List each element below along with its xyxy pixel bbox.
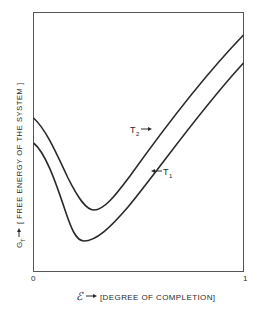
curve-t1 <box>34 63 244 241</box>
free-energy-diagram: T 2 T 1 0 1 ℰ [DEGREE OF COMPLETION] G T… <box>0 0 255 311</box>
plot-frame <box>34 13 244 272</box>
curve-t2 <box>34 35 244 210</box>
arrow-left-icon <box>151 169 155 173</box>
svg-text:1: 1 <box>169 173 173 179</box>
arrow-up-icon <box>17 228 21 232</box>
svg-text:2: 2 <box>136 131 140 137</box>
label-t2: T 2 <box>130 125 152 137</box>
x-axis-label: ℰ [DEGREE OF COMPLETION] <box>76 290 215 302</box>
svg-text:T: T <box>20 238 26 242</box>
y-axis-label: G T [ FREE ENERGY OF THE SYSTEM ] <box>15 82 26 248</box>
x-tick-0: 0 <box>31 274 36 283</box>
arrow-right-icon <box>148 127 152 131</box>
x-tick-1: 1 <box>243 274 248 283</box>
svg-text:[DEGREE OF COMPLETION]: [DEGREE OF COMPLETION] <box>100 293 215 302</box>
arrow-right-icon <box>93 294 97 298</box>
svg-text:ℰ: ℰ <box>76 290 84 302</box>
svg-text:[ FREE ENERGY OF THE SYSTEM ]: [ FREE ENERGY OF THE SYSTEM ] <box>15 82 24 224</box>
